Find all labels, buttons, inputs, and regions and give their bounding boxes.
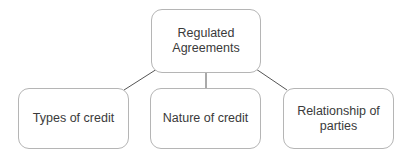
connector-root-to-types — [124, 69, 157, 90]
node-label: Nature of credit — [157, 111, 254, 126]
diagram-canvas: Regulated Agreements Types of credit Nat… — [0, 0, 410, 157]
node-regulated-agreements: Regulated Agreements — [151, 9, 261, 73]
node-label: Regulated Agreements — [152, 26, 260, 56]
node-nature-of-credit: Nature of credit — [150, 88, 261, 149]
node-label: Relationship of parties — [284, 104, 393, 134]
node-types-of-credit: Types of credit — [18, 88, 129, 149]
connector-root-to-relationship — [256, 69, 287, 90]
node-label: Types of credit — [27, 111, 120, 126]
node-relationship-of-parties: Relationship of parties — [283, 88, 394, 149]
